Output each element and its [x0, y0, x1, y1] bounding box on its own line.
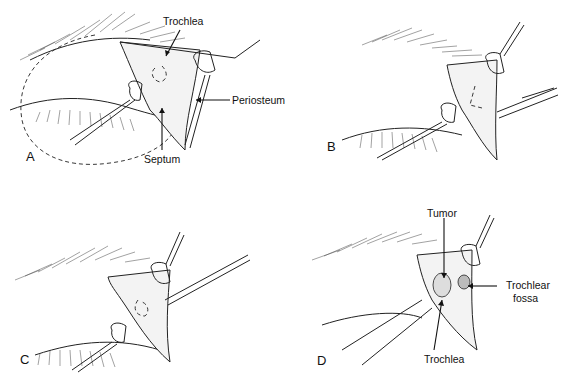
panel-letter-a: A	[26, 150, 35, 164]
panel-b: B	[282, 0, 563, 189]
panel-d: Tumor Trochlear fossa Trochlea D	[282, 190, 563, 379]
label-septum: Septum	[144, 153, 180, 165]
label-trochlear-fossa-line1: Trochlear	[506, 279, 550, 291]
panel-a: Trochlea Periosteum Septum A	[0, 0, 281, 189]
eyelid-incision-illustration-c	[0, 190, 281, 379]
label-trochlear-fossa-line2: fossa	[513, 292, 538, 304]
label-trochlea-d: Trochlea	[424, 353, 464, 365]
panel-letter-d: D	[317, 354, 326, 368]
eyelid-incision-illustration-b	[282, 0, 563, 189]
label-periosteum: Periosteum	[232, 94, 285, 106]
label-tumor: Tumor	[427, 207, 457, 219]
panel-c: C	[0, 190, 281, 379]
panel-letter-c: C	[20, 353, 29, 367]
panel-letter-b: B	[327, 140, 336, 154]
label-trochlea: Trochlea	[163, 15, 203, 27]
